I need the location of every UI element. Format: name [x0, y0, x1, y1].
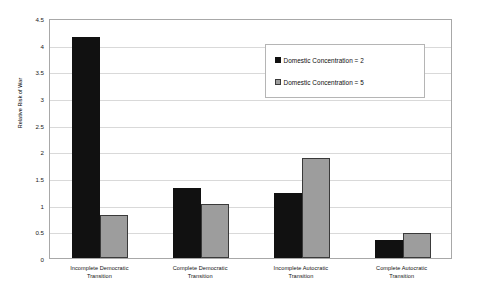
legend-item: Domestic Concentration = 2	[275, 53, 415, 67]
y-axis-tick-label: 1	[22, 202, 44, 209]
y-axis-tick-label: 0.5	[22, 229, 44, 236]
y-axis-tick-label: 0	[22, 256, 44, 263]
bar	[302, 158, 330, 258]
gridline	[50, 153, 451, 154]
legend-item: Domestic Concentration = 5	[275, 75, 415, 89]
y-axis-tick-label: 2.5	[22, 122, 44, 129]
legend-label: Domestic Concentration = 2	[284, 57, 364, 64]
y-axis-tick-label: 4.5	[22, 16, 44, 23]
bar	[100, 215, 128, 258]
x-axis-category-label: Incomplete DemocraticTransition	[49, 264, 150, 281]
bar-chart: Relative Risk of War 00.511.522.533.544.…	[0, 0, 477, 297]
legend-swatch-icon	[275, 57, 281, 63]
x-axis-category-label: Complete AutocraticTransition	[351, 264, 452, 281]
bar	[403, 233, 431, 258]
chart-legend: Domestic Concentration = 2 Domestic Conc…	[265, 44, 425, 98]
y-axis-tick-label: 3.5	[22, 69, 44, 76]
gridline	[50, 100, 451, 101]
gridline	[50, 207, 451, 208]
x-axis-category-label: Incomplete AutocraticTransition	[251, 264, 352, 281]
bar	[72, 37, 100, 258]
x-axis-category-label: Complete DemocraticTransition	[150, 264, 251, 281]
bar	[375, 240, 403, 258]
legend-swatch-icon	[275, 79, 281, 85]
gridline	[50, 180, 451, 181]
legend-label: Domestic Concentration = 5	[284, 79, 364, 86]
bar	[173, 188, 201, 258]
bar	[274, 193, 302, 258]
bar	[201, 204, 229, 258]
y-axis-tick-label: 3	[22, 96, 44, 103]
y-axis-tick-label: 2	[22, 149, 44, 156]
y-axis-tick-label: 4	[22, 42, 44, 49]
y-axis-tick-label: 1.5	[22, 176, 44, 183]
gridline	[50, 127, 451, 128]
y-axis-title: Relative Risk of War	[17, 43, 23, 163]
